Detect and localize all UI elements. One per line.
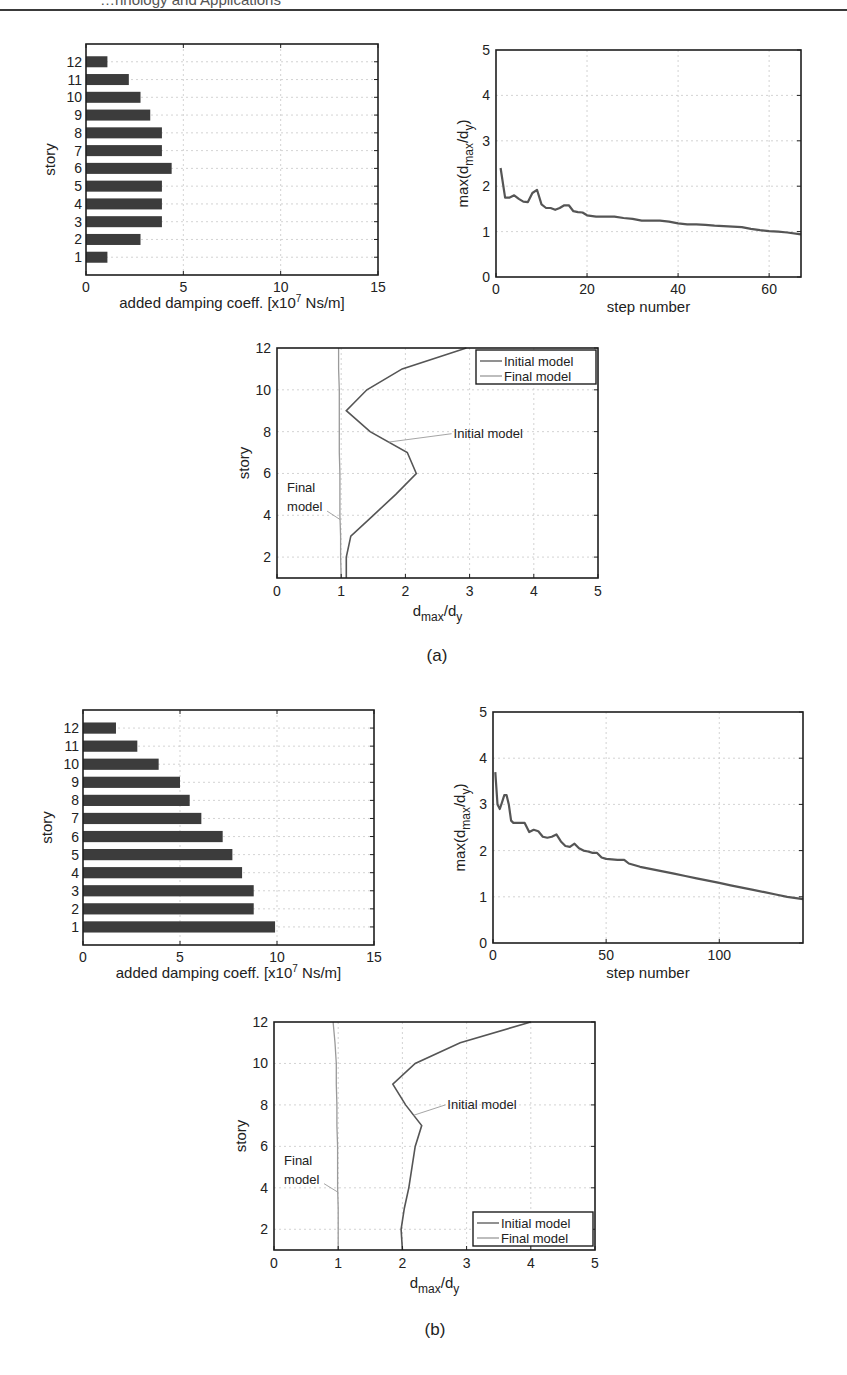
y-axis-label: story bbox=[235, 446, 252, 479]
bar-story-7 bbox=[83, 813, 201, 824]
y-tick-label: 4 bbox=[479, 750, 487, 766]
bar-story-3 bbox=[86, 216, 162, 227]
plot-frame bbox=[496, 50, 801, 277]
x-tick-label: 20 bbox=[579, 281, 595, 297]
chart-a-drift-profile: 01234524681012Initial modelFinalmodelIni… bbox=[235, 340, 602, 624]
x-axis-label: dmax​/dy​ bbox=[413, 602, 463, 624]
y-tick-label: 1 bbox=[482, 224, 490, 240]
bar-story-4 bbox=[83, 867, 242, 878]
annotation-initial-model: Initial model bbox=[447, 1097, 516, 1112]
x-tick-label: 15 bbox=[366, 949, 382, 965]
bar-story-3 bbox=[83, 885, 254, 896]
x-axis-label: dmax​/dy​ bbox=[410, 1274, 460, 1296]
convergence-line bbox=[495, 772, 803, 899]
y-tick-label: 2 bbox=[260, 1221, 268, 1237]
x-tick-label: 0 bbox=[489, 947, 497, 963]
y-axis-label: max(dmax​/dy​) bbox=[451, 784, 473, 872]
chart-b-convergence-line: 050100012345step numbermax(dmax​/dy​) bbox=[451, 704, 803, 981]
chart-a-convergence-line: 0204060012345step numbermax(dmax​/dy​) bbox=[454, 42, 801, 315]
y-tick-label: 12 bbox=[252, 1014, 268, 1030]
bar-story-6 bbox=[83, 831, 223, 842]
initial-model-line bbox=[346, 348, 466, 578]
bar-story-5 bbox=[86, 181, 162, 192]
caption-b: (b) bbox=[425, 1320, 446, 1339]
y-tick-label: 8 bbox=[263, 424, 271, 440]
x-tick-label: 0 bbox=[82, 279, 90, 295]
legend-entry: Initial model bbox=[504, 354, 573, 369]
y-tick-label: 12 bbox=[66, 54, 82, 70]
x-tick-label: 60 bbox=[761, 281, 777, 297]
y-tick-label: 6 bbox=[74, 160, 82, 176]
bar-story-7 bbox=[86, 145, 162, 156]
y-tick-label: 5 bbox=[482, 42, 490, 58]
y-tick-label: 10 bbox=[255, 382, 271, 398]
annotation-model: model bbox=[284, 1172, 320, 1187]
y-tick-label: 8 bbox=[74, 125, 82, 141]
bar-story-6 bbox=[86, 163, 172, 174]
y-tick-label: 2 bbox=[74, 231, 82, 247]
legend-entry: Initial model bbox=[501, 1216, 570, 1231]
bar-story-8 bbox=[83, 795, 190, 806]
bar-story-4 bbox=[86, 198, 162, 209]
bar-story-8 bbox=[86, 127, 162, 138]
x-tick-label: 10 bbox=[269, 949, 285, 965]
bar-story-5 bbox=[83, 849, 232, 860]
y-tick-label: 4 bbox=[74, 196, 82, 212]
y-tick-label: 1 bbox=[74, 249, 82, 265]
bar-story-9 bbox=[86, 110, 150, 121]
y-tick-label: 2 bbox=[263, 549, 271, 565]
bar-story-12 bbox=[86, 56, 107, 67]
y-axis-label: story bbox=[232, 1119, 249, 1152]
y-tick-label: 10 bbox=[252, 1055, 268, 1071]
annotation-final: Final bbox=[287, 480, 315, 495]
y-tick-label: 6 bbox=[260, 1138, 268, 1154]
y-tick-label: 6 bbox=[71, 829, 79, 845]
y-tick-label: 12 bbox=[63, 720, 79, 736]
bar-story-2 bbox=[83, 903, 254, 914]
y-tick-label: 5 bbox=[71, 847, 79, 863]
y-tick-label: 2 bbox=[71, 901, 79, 917]
legend-entry: Final model bbox=[501, 1231, 568, 1246]
x-tick-label: 50 bbox=[598, 947, 614, 963]
x-tick-label: 4 bbox=[527, 1255, 535, 1271]
annotation-initial-model: Initial model bbox=[454, 426, 523, 441]
y-tick-label: 3 bbox=[482, 133, 490, 149]
x-tick-label: 1 bbox=[337, 583, 345, 599]
annotation-final: Final bbox=[284, 1153, 312, 1168]
x-axis-label: added damping coeff. [x107​ Ns/m] bbox=[119, 293, 344, 311]
y-tick-label: 3 bbox=[71, 883, 79, 899]
x-tick-label: 5 bbox=[179, 279, 187, 295]
y-tick-label: 4 bbox=[260, 1180, 268, 1196]
chart-b-drift-profile: 01234524681012Initial modelFinalmodelIni… bbox=[232, 1014, 599, 1296]
bar-story-11 bbox=[86, 74, 129, 85]
x-tick-label: 40 bbox=[670, 281, 686, 297]
x-tick-label: 10 bbox=[273, 279, 289, 295]
x-tick-label: 0 bbox=[492, 281, 500, 297]
x-tick-label: 100 bbox=[708, 947, 732, 963]
y-tick-label: 1 bbox=[479, 889, 487, 905]
x-tick-label: 5 bbox=[591, 1255, 599, 1271]
x-tick-label: 2 bbox=[402, 583, 410, 599]
y-tick-label: 9 bbox=[74, 107, 82, 123]
chart-b-damping-bars: 123456789101112051015added damping coeff… bbox=[38, 710, 382, 981]
plot-frame bbox=[493, 712, 803, 943]
x-tick-label: 0 bbox=[273, 583, 281, 599]
y-tick-label: 12 bbox=[255, 340, 271, 356]
x-tick-label: 3 bbox=[466, 583, 474, 599]
caption-a: (a) bbox=[427, 646, 448, 665]
x-tick-label: 3 bbox=[463, 1255, 471, 1271]
convergence-line bbox=[501, 168, 801, 234]
final-model-line bbox=[333, 1022, 338, 1250]
x-tick-label: 0 bbox=[79, 949, 87, 965]
bar-story-1 bbox=[86, 252, 107, 263]
y-tick-label: 6 bbox=[263, 465, 271, 481]
y-axis-label: story bbox=[38, 811, 55, 844]
bar-story-11 bbox=[83, 741, 137, 752]
y-tick-label: 0 bbox=[479, 935, 487, 951]
y-tick-label: 4 bbox=[482, 87, 490, 103]
x-axis-label: added damping coeff. [x107​ Ns/m] bbox=[116, 963, 341, 981]
annotation-model: model bbox=[287, 499, 323, 514]
x-tick-label: 4 bbox=[530, 583, 538, 599]
y-tick-label: 2 bbox=[482, 178, 490, 194]
x-tick-label: 1 bbox=[334, 1255, 342, 1271]
